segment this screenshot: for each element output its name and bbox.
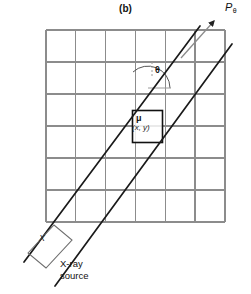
panel-caption: (b) <box>0 4 251 15</box>
angle-label: θ <box>155 66 160 75</box>
angle-arc <box>133 66 170 88</box>
beam-ray-lower <box>55 44 232 286</box>
source-caption-line-2: source <box>60 270 89 282</box>
projection-subscript: θ <box>233 7 237 14</box>
beam-direction-arrow <box>181 21 214 58</box>
figure-container: (b) Pθ θ μ (x, y) X X-ray source <box>0 0 251 294</box>
projection-label: Pθ <box>225 2 237 14</box>
xray-source-caption: X-ray source <box>60 258 89 282</box>
projection-symbol: P <box>225 1 232 13</box>
voxel-coordinates-label: (x, y) <box>132 124 150 132</box>
source-box-label: X <box>39 234 45 243</box>
beam-ray-upper <box>24 26 200 262</box>
source-caption-line-1: X-ray <box>60 258 89 270</box>
diagram-canvas <box>0 0 251 294</box>
xray-beam <box>24 26 232 286</box>
